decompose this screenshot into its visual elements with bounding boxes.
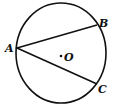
label-b: B (98, 17, 108, 30)
chord-ac (17, 48, 97, 84)
chord-ab (17, 25, 97, 48)
label-o: O (64, 51, 74, 64)
geometry-diagram: A B C O (0, 0, 115, 109)
label-a: A (4, 42, 14, 55)
center-point-o (60, 55, 63, 58)
label-c: C (98, 83, 107, 96)
